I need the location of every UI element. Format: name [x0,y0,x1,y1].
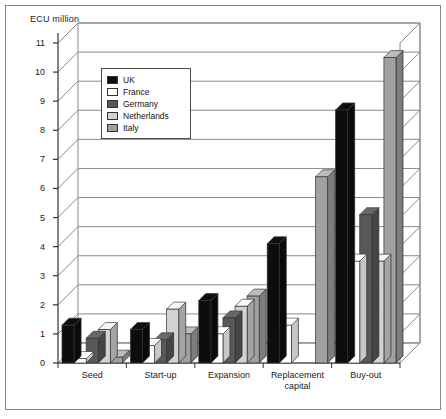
legend-item: Italy [107,122,185,133]
bar-chart-plot [0,0,446,419]
bar-uk-3 [267,237,286,363]
bar-uk-1 [130,323,149,363]
legend-swatch-netherlands [107,112,118,120]
chart-page: ECU million UKFranceGermanyNetherlandsIt… [0,0,446,419]
y-axis-tick-label: 10 [25,67,45,77]
legend-swatch-france [107,88,118,96]
legend-label: UK [123,75,135,85]
x-axis-category-label: Buy-out [326,370,406,381]
y-axis-tick-label: 1 [25,329,45,339]
bar-uk-0 [62,318,81,363]
y-axis-tick-label: 6 [25,183,45,193]
y-axis-tick-label: 11 [25,38,45,48]
legend-item: Netherlands [107,110,185,121]
y-axis-tick-label: 9 [25,96,45,106]
legend-swatch-italy [107,124,118,132]
legend-label: Netherlands [123,111,169,121]
legend-label: Germany [123,99,158,109]
y-axis-tick-label: 5 [25,213,45,223]
legend-label: Italy [123,123,139,133]
bar-uk-2 [199,293,218,363]
legend-swatch-uk [107,76,118,84]
y-axis-tick-label: 2 [25,300,45,310]
legend-item: France [107,86,185,97]
chart-svg [0,0,446,419]
legend-label: France [123,87,149,97]
y-axis-tick-label: 3 [25,271,45,281]
legend-swatch-germany [107,100,118,108]
chart-legend: UKFranceGermanyNetherlandsItaly [101,68,191,139]
y-axis-tick-label: 7 [25,154,45,164]
bar-italy-3 [316,170,335,363]
bar-uk-4 [336,103,355,363]
legend-item: UK [107,74,185,85]
y-axis-tick-label: 4 [25,242,45,252]
legend-item: Germany [107,98,185,109]
y-axis-tick-label: 8 [25,125,45,135]
y-axis-tick-label: 0 [25,358,45,368]
